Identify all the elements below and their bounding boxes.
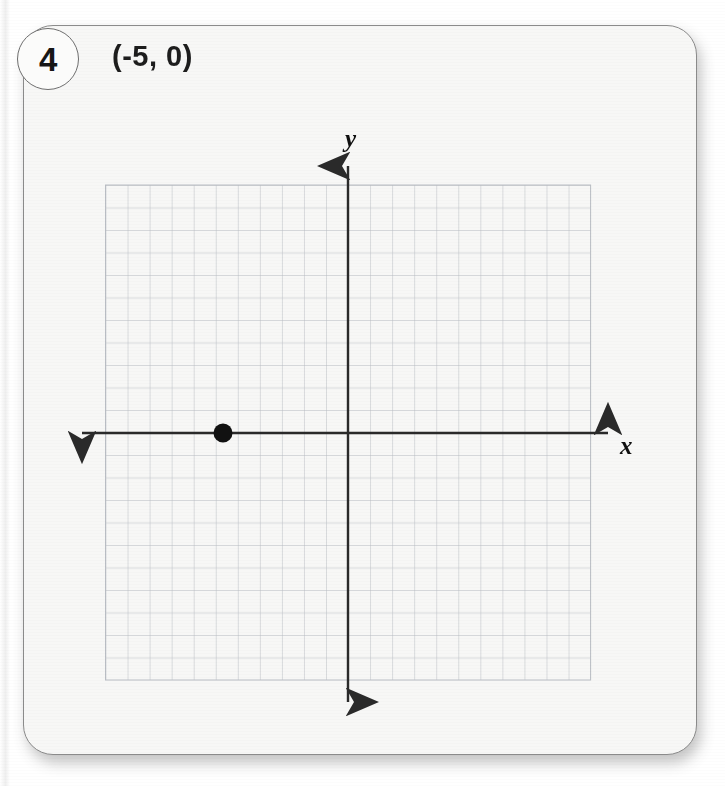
problem-number-badge: 4 <box>17 28 79 90</box>
y-axis-label: y <box>345 125 356 153</box>
page-gutter <box>0 0 10 786</box>
worksheet-card <box>23 25 697 755</box>
problem-number-text: 4 <box>39 43 57 76</box>
coordinate-prompt-text: (-5, 0) <box>112 40 193 73</box>
x-axis-label: x <box>620 432 633 460</box>
